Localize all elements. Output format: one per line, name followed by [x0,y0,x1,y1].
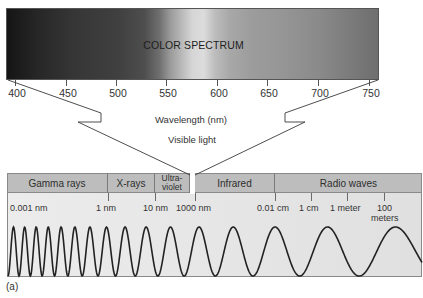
funnel-right-line [195,80,378,175]
diagram-lines [0,0,423,298]
figure-label: (a) [6,281,18,292]
em-wave [8,227,422,276]
funnel-left-line [8,80,190,175]
